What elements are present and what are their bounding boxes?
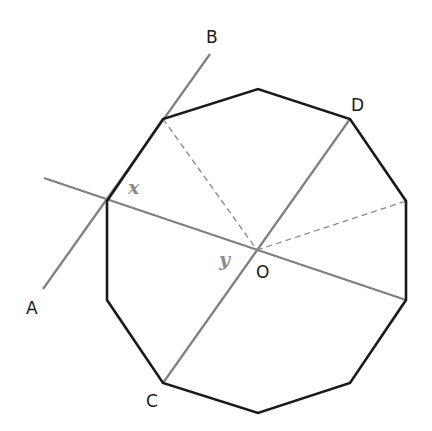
- label-o: O: [256, 264, 269, 281]
- angle-label-x: x: [128, 178, 139, 197]
- line-through-o: [44, 178, 406, 300]
- diameter-cd: [163, 119, 350, 383]
- angle-label-y: y: [219, 250, 230, 269]
- diagram-canvas: [0, 0, 432, 431]
- label-d: D: [351, 97, 364, 114]
- decagon-diagram: B D A C O x y: [0, 0, 432, 431]
- dashed-radius-right: [257, 201, 406, 250]
- label-b: B: [206, 29, 218, 46]
- label-c: C: [146, 393, 158, 410]
- dashed-radius-upper: [163, 119, 257, 250]
- label-a: A: [26, 300, 38, 317]
